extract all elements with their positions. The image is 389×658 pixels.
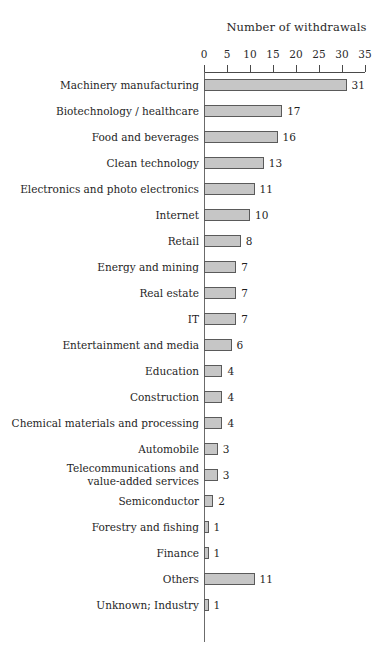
x-axis-tick-mark <box>319 65 320 72</box>
x-axis-tick-label: 35 <box>358 48 371 60</box>
bar-row: Construction4 <box>0 390 389 416</box>
category-label: Education <box>3 365 199 378</box>
x-axis-tick-label: 0 <box>201 48 208 60</box>
bar-value-label: 8 <box>246 235 253 248</box>
x-axis-line <box>204 72 365 73</box>
bar <box>204 183 255 195</box>
x-axis-tick-label: 10 <box>243 48 256 60</box>
category-label: Food and beverages <box>3 131 199 144</box>
x-axis-tick-mark <box>204 65 205 72</box>
bar-row: Energy and mining7 <box>0 260 389 286</box>
bar <box>204 417 222 429</box>
bar-row: Internet10 <box>0 208 389 234</box>
bar-row: Clean technology13 <box>0 156 389 182</box>
bar-value-label: 4 <box>227 391 234 404</box>
bar <box>204 157 264 169</box>
bar-row: Education4 <box>0 364 389 390</box>
bar <box>204 209 250 221</box>
bar-value-label: 10 <box>255 209 268 222</box>
category-label: Electronics and photo electronics <box>3 183 199 196</box>
bar <box>204 235 241 247</box>
category-label: Construction <box>3 391 199 404</box>
bar-value-label: 11 <box>260 183 273 196</box>
bar-row: Semiconductor2 <box>0 494 389 520</box>
bar <box>204 287 236 299</box>
bar-row: Forestry and fishing1 <box>0 520 389 546</box>
category-label: Chemical materials and processing <box>3 417 199 430</box>
bar-row: Entertainment and media6 <box>0 338 389 364</box>
x-axis-tick-mark <box>342 65 343 72</box>
x-axis-tick-label: 5 <box>224 48 231 60</box>
x-axis-tick-label: 20 <box>289 48 302 60</box>
bar <box>204 443 218 455</box>
category-label: Clean technology <box>3 157 199 170</box>
category-label: Telecommunications and value-added servi… <box>3 462 199 488</box>
bar <box>204 547 209 559</box>
bar-row: Electronics and photo electronics11 <box>0 182 389 208</box>
bar-value-label: 4 <box>227 417 234 430</box>
bar <box>204 261 236 273</box>
category-label: Entertainment and media <box>3 339 199 352</box>
bar-value-label: 7 <box>241 261 248 274</box>
bar-row: Biotechnology / healthcare17 <box>0 104 389 130</box>
category-label: Automobile <box>3 443 199 456</box>
bar-value-label: 7 <box>241 313 248 326</box>
bar-row: Real estate7 <box>0 286 389 312</box>
bar <box>204 313 236 325</box>
bar <box>204 573 255 585</box>
bar <box>204 365 222 377</box>
category-label: Internet <box>3 209 199 222</box>
x-axis-tick-mark <box>365 65 366 72</box>
category-label: Real estate <box>3 287 199 300</box>
x-axis-tick-mark <box>227 65 228 72</box>
category-label: Energy and mining <box>3 261 199 274</box>
x-axis-tick-label: 25 <box>312 48 325 60</box>
bar-value-label: 3 <box>223 469 230 482</box>
bar-row: Finance1 <box>0 546 389 572</box>
bar-rows: Machinery manufacturing31Biotechnology /… <box>0 78 389 624</box>
withdrawals-bar-chart: Number of withdrawals 05101520253035 Mac… <box>0 0 389 658</box>
category-label: Forestry and fishing <box>3 521 199 534</box>
bar-value-label: 6 <box>237 339 244 352</box>
bar-row: Chemical materials and processing4 <box>0 416 389 442</box>
bar <box>204 521 209 533</box>
bar-value-label: 11 <box>260 573 273 586</box>
bar <box>204 105 282 117</box>
bar-value-label: 16 <box>283 131 296 144</box>
category-label: Others <box>3 573 199 586</box>
bar-row: Telecommunications and value-added servi… <box>0 468 389 494</box>
bar-value-label: 13 <box>269 157 282 170</box>
bar-row: IT7 <box>0 312 389 338</box>
bar-row: Machinery manufacturing31 <box>0 78 389 104</box>
category-label: Retail <box>3 235 199 248</box>
category-label: Finance <box>3 547 199 560</box>
bar <box>204 391 222 403</box>
bar <box>204 469 218 481</box>
x-axis-tick-mark <box>296 65 297 72</box>
bar <box>204 495 213 507</box>
bar-value-label: 1 <box>214 547 221 560</box>
bar-row: Retail8 <box>0 234 389 260</box>
x-axis-tick-label: 15 <box>266 48 279 60</box>
bar-value-label: 7 <box>241 287 248 300</box>
bar-value-label: 1 <box>214 521 221 534</box>
x-axis-tick-mark <box>250 65 251 72</box>
bar-row: Unknown; Industry1 <box>0 598 389 624</box>
category-label: IT <box>3 313 199 326</box>
category-label: Biotechnology / healthcare <box>3 105 199 118</box>
bar <box>204 131 278 143</box>
bar-value-label: 1 <box>214 599 221 612</box>
bar-value-label: 2 <box>218 495 225 508</box>
bar <box>204 79 347 91</box>
bar-value-label: 17 <box>287 105 300 118</box>
category-label: Machinery manufacturing <box>3 79 199 92</box>
x-axis-tick-label: 30 <box>335 48 348 60</box>
bar-value-label: 31 <box>352 79 365 92</box>
x-axis-tick-mark <box>273 65 274 72</box>
bar-row: Food and beverages16 <box>0 130 389 156</box>
category-label: Unknown; Industry <box>3 599 199 612</box>
bar <box>204 599 209 611</box>
category-label: Semiconductor <box>3 495 199 508</box>
bar-row: Others11 <box>0 572 389 598</box>
bar-value-label: 3 <box>223 443 230 456</box>
